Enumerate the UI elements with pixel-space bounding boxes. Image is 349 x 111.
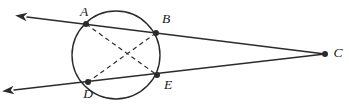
vertex-dot-b xyxy=(153,30,159,36)
vertex-labels-group: ABCDE xyxy=(79,4,344,101)
vertex-label-b: B xyxy=(162,11,170,26)
secant-line-upper xyxy=(27,17,325,54)
vertex-dot-c xyxy=(322,51,328,57)
vertex-dot-a xyxy=(83,21,89,27)
vertex-dot-e xyxy=(154,72,160,78)
vertex-label-c: C xyxy=(333,45,343,60)
geometry-figure: ABCDE xyxy=(0,0,349,111)
vertex-label-d: D xyxy=(82,86,93,101)
geometry-canvas: ABCDE xyxy=(0,0,349,111)
vertex-dots-group xyxy=(83,21,328,85)
vertex-dot-d xyxy=(85,79,91,85)
vertex-label-e: E xyxy=(163,77,173,92)
chords-group xyxy=(86,24,157,82)
vertex-label-a: A xyxy=(79,4,89,19)
